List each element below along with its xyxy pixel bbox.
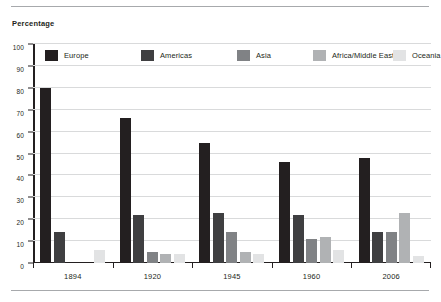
- x-tick-label-1920: 1920: [144, 272, 162, 281]
- x-tick-label-1894: 1894: [64, 272, 82, 281]
- x-axis: 18941920194519602006: [33, 263, 431, 289]
- bar-africa-middle-east-2006: [399, 213, 410, 263]
- legend-label: Africa/Middle East: [332, 51, 394, 60]
- bar-americas-1960: [293, 215, 304, 263]
- bar-oceania-1945: [253, 254, 264, 263]
- bar-africa-middle-east-1945: [240, 252, 251, 263]
- x-tick-mark-4: [351, 263, 352, 268]
- x-tick-mark-end: [430, 263, 431, 268]
- bar-oceania-1960: [333, 250, 344, 263]
- bar-europe-1920: [120, 118, 131, 263]
- x-tick-mark-1: [113, 263, 114, 268]
- y-axis-title: Percentage: [12, 19, 54, 28]
- bar-europe-1894: [40, 88, 51, 263]
- chart-legend: EuropeAmericasAsiaAfrica/Middle EastOcea…: [45, 47, 428, 67]
- bar-group-2006: [351, 44, 431, 263]
- legend-item-oceania[interactable]: Oceania: [393, 50, 441, 61]
- legend-swatch-icon: [313, 50, 326, 61]
- x-tick-label-1960: 1960: [303, 272, 321, 281]
- bar-asia-1920: [147, 252, 158, 263]
- bar-europe-1945: [199, 143, 210, 263]
- plot-area: [33, 44, 431, 263]
- legend-label: Europe: [64, 51, 89, 60]
- bar-asia-2006: [386, 232, 397, 263]
- x-tick-mark-3: [272, 263, 273, 268]
- top-divider-rule: [11, 6, 429, 7]
- legend-label: Oceania: [412, 51, 441, 60]
- bar-americas-1920: [133, 215, 144, 263]
- legend-item-asia[interactable]: Asia: [237, 50, 271, 61]
- legend-label: Asia: [256, 51, 271, 60]
- bar-europe-2006: [359, 158, 370, 263]
- bars-layer: [33, 44, 431, 263]
- legend-item-africa-middle-east[interactable]: Africa/Middle East: [313, 50, 394, 61]
- legend-swatch-icon: [393, 50, 406, 61]
- bar-asia-1960: [306, 239, 317, 263]
- bar-group-1945: [192, 44, 272, 263]
- bar-africa-middle-east-1960: [320, 237, 331, 263]
- bottom-divider-rule: [11, 290, 429, 291]
- bar-asia-1945: [226, 232, 237, 263]
- bar-oceania-1920: [174, 254, 185, 263]
- bar-group-1960: [272, 44, 352, 263]
- y-axis-tick-labels: 0102030405060708090100: [0, 44, 33, 263]
- bar-oceania-1894: [94, 250, 105, 263]
- bar-americas-2006: [372, 232, 383, 263]
- bar-group-1920: [113, 44, 193, 263]
- x-tick-label-1945: 1945: [223, 272, 241, 281]
- legend-label: Americas: [160, 51, 192, 60]
- x-tick-label-2006: 2006: [382, 272, 400, 281]
- bar-americas-1894: [54, 232, 65, 263]
- legend-swatch-icon: [45, 50, 58, 61]
- bar-europe-1960: [279, 162, 290, 263]
- legend-swatch-icon: [237, 50, 250, 61]
- bar-africa-middle-east-1920: [160, 254, 171, 263]
- legend-item-europe[interactable]: Europe: [45, 50, 89, 61]
- x-tick-mark-0: [33, 263, 34, 268]
- legend-swatch-icon: [141, 50, 154, 61]
- x-tick-mark-2: [192, 263, 193, 268]
- bar-americas-1945: [213, 213, 224, 263]
- legend-item-americas[interactable]: Americas: [141, 50, 192, 61]
- bar-group-1894: [33, 44, 113, 263]
